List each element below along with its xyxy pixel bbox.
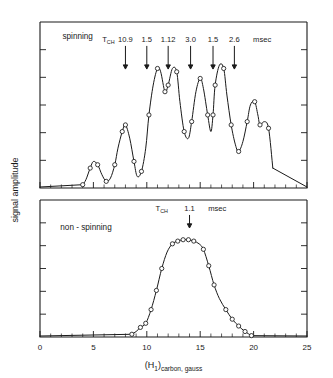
panel-spinning-value-label: 1.5 <box>208 35 219 44</box>
panel-spinning-value-label: 10.9 <box>118 35 133 44</box>
panel-spinning-arrow-head <box>188 65 192 69</box>
panel-nonspinning-data-point <box>181 238 185 242</box>
panel-nonspinning-data-point <box>130 332 134 336</box>
panel-spinning-value-label: 2.6 <box>229 35 240 44</box>
panel-nonspinning-data-point <box>154 288 158 292</box>
panel-nonspinning-tch-label: TCH <box>156 204 169 214</box>
xaxis-tick-label: 20 <box>249 343 258 352</box>
panel-spinning-data-point <box>211 113 215 117</box>
panel-nonspinning-data-point <box>138 325 142 329</box>
panel-spinning-data-point <box>132 159 136 163</box>
panel-spinning-value-label: 3.0 <box>185 35 196 44</box>
panel-spinning-data-point <box>147 113 151 117</box>
panel-spinning-data-point <box>222 66 226 70</box>
panel-spinning-data-point <box>266 126 270 130</box>
panel-nonspinning-value-label: 1.1 <box>184 204 195 213</box>
xaxis-tick-label: 25 <box>303 343 312 352</box>
panel-spinning-value-label: 1.5 <box>142 35 153 44</box>
panel-spinning-title: spinning <box>62 32 93 41</box>
xaxis-title-tail: carbon, gauss <box>161 365 203 373</box>
panel-nonspinning-data-point <box>149 308 153 312</box>
panel-nonspinning-baseline-left <box>40 334 132 336</box>
panel-spinning-data-point <box>245 120 249 124</box>
panel-spinning-unit-label: msec <box>253 35 271 44</box>
panel-spinning-arrow-head <box>145 65 149 69</box>
panel-spinning-data-point <box>120 129 124 133</box>
nmr-nutation-figure: 0510152025TCH10.91.51.123.01.52.6msecspi… <box>0 0 333 378</box>
panel-nonspinning-unit-label: msec <box>208 204 226 213</box>
xaxis-tick-label: 0 <box>38 343 43 352</box>
panel-nonspinning-arrow-head <box>187 224 191 228</box>
panel-spinning-data-point <box>258 123 262 127</box>
tch-subscript: CH <box>107 39 115 45</box>
panel-nonspinning-data-point <box>237 324 241 328</box>
panel-nonspinning-data-point <box>160 266 164 270</box>
panel-spinning-arrow-head <box>232 65 236 69</box>
panel-nonspinning-data-point <box>170 242 174 246</box>
panel-spinning-value-label: 1.12 <box>161 35 176 44</box>
panel-nonspinning-data-point <box>207 264 211 268</box>
panel-spinning-arrow-head <box>211 65 215 69</box>
panel-spinning-data-point <box>163 90 167 94</box>
panel-spinning-data-point <box>237 149 241 153</box>
xaxis-tick-label: 15 <box>196 343 205 352</box>
panel-spinning-data-point <box>182 129 186 133</box>
panel-spinning-baseline-right <box>273 168 307 187</box>
panel-spinning-data-point <box>198 76 202 80</box>
panel-spinning-data-point <box>113 163 117 167</box>
panel-nonspinning-data-point <box>230 317 234 321</box>
panel-spinning-arrow-head <box>123 65 127 69</box>
panel-nonspinning-data-point <box>144 321 148 325</box>
panel-nonspinning-data-point <box>243 329 247 333</box>
figure-canvas: 0510152025TCH10.91.51.123.01.52.6msecspi… <box>0 0 333 378</box>
panel-spinning-frame <box>40 22 307 188</box>
panel-nonspinning-data-point <box>192 239 196 243</box>
xaxis-tick-label: 10 <box>142 343 151 352</box>
panel-spinning-data-point <box>81 183 85 187</box>
panel-spinning-data-point <box>96 163 100 167</box>
panel-spinning-arrow-head <box>166 65 170 69</box>
panel-nonspinning-title: non - spinning <box>60 223 112 232</box>
panel-nonspinning-data-point <box>224 308 228 312</box>
panel-spinning-data-point <box>139 169 143 173</box>
panel-spinning-data-point <box>206 113 210 117</box>
panel-nonspinning-data-point <box>176 239 180 243</box>
xaxis-title: (H1)carbon, gauss <box>145 360 203 373</box>
panel-nonspinning-data-point <box>249 334 253 338</box>
panel-spinning-data-point <box>213 83 217 87</box>
tch-subscript: CH <box>160 208 168 214</box>
panel-spinning-data-point <box>253 100 257 104</box>
panel-nonspinning-frame <box>40 200 307 337</box>
panel-nonspinning-data-point <box>201 247 205 251</box>
xaxis-tick-label: 5 <box>91 343 96 352</box>
panel-spinning-data-point <box>88 166 92 170</box>
panel-nonspinning-data-point <box>186 238 190 242</box>
panel-spinning-data-point <box>229 123 233 127</box>
panel-spinning-data-point <box>175 70 179 74</box>
panel-spinning-tch-label: TCH <box>102 35 115 45</box>
yaxis-title: signal amplitude <box>10 157 20 222</box>
panel-spinning-data-point <box>104 179 108 183</box>
panel-spinning-data-point <box>190 120 194 124</box>
panel-spinning-data-point <box>166 83 170 87</box>
panel-nonspinning-data-point <box>212 283 216 287</box>
panel-spinning-trace <box>83 64 273 185</box>
panel-spinning-data-point <box>123 123 127 127</box>
panel-spinning-data-point <box>155 66 159 70</box>
